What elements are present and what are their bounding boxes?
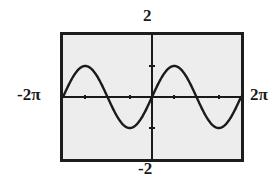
x-axis-min-label: -2π — [17, 86, 40, 103]
x-axis-max-label: 2π — [250, 86, 268, 103]
y-axis-min-label: -2 — [138, 160, 152, 177]
sine-wave-figure: 2 -2 -2π 2π — [0, 0, 279, 183]
y-axis-max-label: 2 — [143, 7, 152, 24]
x-axis-max-label-text: 2π — [250, 85, 268, 104]
plot-canvas — [63, 35, 241, 159]
x-axis-min-label-text: -2π — [17, 85, 40, 104]
plot-frame — [60, 32, 244, 162]
